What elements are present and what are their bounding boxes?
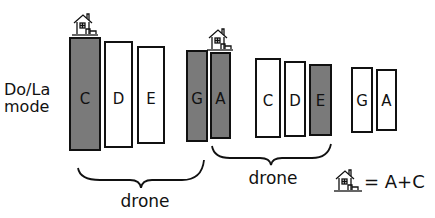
bar-C1: C (70, 38, 100, 150)
svg-text:D: D (113, 90, 125, 108)
svg-text:E: E (316, 92, 325, 110)
bar-G2: G (352, 68, 372, 132)
svg-text:A: A (381, 92, 392, 110)
svg-text:E: E (146, 90, 155, 108)
svg-text:G: G (356, 92, 368, 110)
house-icon (207, 29, 233, 50)
svg-text:G: G (191, 90, 203, 108)
drone-label-1: drone (120, 191, 169, 211)
bar-G1: G (187, 51, 207, 141)
bar-A2: A (377, 70, 396, 130)
drone-diagram: Do/La mode C D E G A C D E G A (0, 0, 435, 218)
bar-D1: D (105, 42, 132, 147)
drone-label-2: drone (248, 168, 297, 188)
legend-text: = A+C (364, 171, 425, 192)
mode-label-line2: mode (4, 97, 49, 116)
house-icon (72, 14, 98, 35)
svg-text:C: C (263, 92, 273, 110)
bar-C2: C (256, 59, 280, 137)
bar-A1: A (211, 53, 230, 138)
legend-house-icon (334, 170, 362, 191)
svg-text:D: D (289, 92, 301, 110)
bar-E1: E (138, 47, 164, 143)
drone-brace-1 (78, 160, 204, 188)
bar-E2: E (310, 65, 331, 135)
svg-text:A: A (215, 90, 226, 108)
bar-D2: D (285, 62, 305, 136)
svg-text:C: C (80, 90, 90, 108)
drone-brace-2 (212, 144, 331, 165)
